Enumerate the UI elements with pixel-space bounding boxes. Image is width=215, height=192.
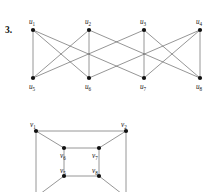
graph-bottom-labels: v1v2v3v4v6v7v5v8 <box>30 121 127 192</box>
problem-number-label: 3. <box>5 25 12 35</box>
graph-edge <box>36 176 64 192</box>
vertex-label-subscript-v7: 7 <box>95 155 98 161</box>
vertex-label-u5: u5 <box>29 83 36 92</box>
vertex-label-subscript-v6: 6 <box>63 155 66 161</box>
vertex-label-subscript-u2: 2 <box>89 21 92 27</box>
graph-vertex-u5 <box>31 76 35 80</box>
graph-top-labels: u1u2u3u4u5u6u7u8 <box>29 18 203 92</box>
graph-vertex-u3 <box>142 28 146 32</box>
vertex-label-subscript-u8: 8 <box>200 86 203 92</box>
vertex-label-v2: v2 <box>121 121 127 130</box>
graph-vertex-u1 <box>31 28 35 32</box>
vertex-label-subscript-v2: 2 <box>124 124 127 130</box>
graph-top-edges <box>33 30 200 78</box>
vertex-label-u7: u7 <box>140 83 147 92</box>
graph-vertex-u8 <box>198 76 202 80</box>
vertex-label-subscript-u5: 5 <box>33 86 36 92</box>
vertex-label-u2: u2 <box>85 18 92 27</box>
vertex-label-subscript-u4: 4 <box>200 21 203 27</box>
vertex-label-v7: v7 <box>92 152 98 161</box>
graph-figure-svg: u1u2u3u4u5u6u7u8 v1v2v3v4v6v7v5v8 3. <box>0 0 215 192</box>
vertex-label-subscript-u7: 7 <box>144 86 147 92</box>
graph-edge <box>99 131 126 148</box>
vertex-label-u6: u6 <box>85 83 92 92</box>
figure-root: u1u2u3u4u5u6u7u8 v1v2v3v4v6v7v5v8 3. <box>0 0 215 192</box>
graph-vertex-v6 <box>62 146 66 150</box>
vertex-label-subscript-u1: 1 <box>33 21 36 27</box>
graph-vertex-u7 <box>142 76 146 80</box>
vertex-label-v8: v8 <box>92 167 98 176</box>
vertex-label-subscript-u6: 6 <box>89 86 92 92</box>
graph-top-nodes <box>31 28 202 80</box>
graph-vertex-u4 <box>198 28 202 32</box>
vertex-label-u3: u3 <box>140 18 147 27</box>
vertex-label-subscript-u3: 3 <box>144 21 147 27</box>
graph-edge <box>99 176 126 192</box>
graph-vertex-u6 <box>87 76 91 80</box>
vertex-label-u1: u1 <box>29 18 36 27</box>
vertex-label-u4: u4 <box>196 18 203 27</box>
vertex-label-subscript-v1: 1 <box>33 124 36 130</box>
graph-vertex-v7 <box>97 146 101 150</box>
vertex-label-u8: u8 <box>196 83 203 92</box>
graph-vertex-u2 <box>87 28 91 32</box>
vertex-label-v5: v5 <box>60 167 66 176</box>
graph-edge <box>36 131 64 148</box>
vertex-label-v6: v6 <box>60 152 66 161</box>
vertex-label-v1: v1 <box>30 121 36 130</box>
graph-bottom-edges <box>36 131 126 192</box>
